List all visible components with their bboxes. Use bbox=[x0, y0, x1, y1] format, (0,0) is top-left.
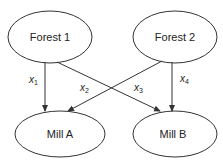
flow-diagram: Forest 1 Forest 2 Mill A Mill B x1 x2 x3… bbox=[0, 0, 223, 168]
node-mill-a: Mill A bbox=[15, 111, 105, 157]
edge-label-x1: x1 bbox=[28, 74, 38, 86]
node-mill-b: Mill B bbox=[133, 111, 217, 157]
node-label-forest-2: Forest 2 bbox=[155, 31, 195, 43]
node-label-mill-b: Mill B bbox=[160, 128, 187, 140]
edge-x3-arrow bbox=[57, 62, 160, 111]
node-forest-2: Forest 2 bbox=[133, 11, 217, 63]
node-label-mill-a: Mill A bbox=[47, 128, 74, 140]
edge-label-x3: x3 bbox=[133, 82, 143, 94]
edge-label-x2: x2 bbox=[79, 82, 89, 94]
node-label-forest-1: Forest 1 bbox=[30, 31, 70, 43]
edge-label-x4: x4 bbox=[179, 73, 189, 85]
node-forest-1: Forest 1 bbox=[8, 11, 92, 63]
